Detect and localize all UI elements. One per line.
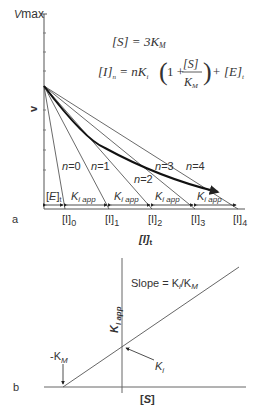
svg-text:KM: KM (183, 75, 199, 90)
svg-text:1 +: 1 + (167, 64, 184, 79)
b-x-axis-label: [S] (140, 393, 155, 405)
tick-i4: [I]4 (233, 213, 247, 228)
svg-text:[S]: [S] (183, 57, 199, 71)
figure: Vmax v nn=0=0 n=1 n=2 n=3 n=4 [S] = 3KM … (0, 0, 260, 414)
interval-kiapp-1: Ki app (71, 190, 96, 204)
label-n0: nn=0=0 (62, 160, 81, 172)
neg-km-label: -KM (50, 350, 68, 365)
tick-i1: [I]1 (105, 213, 119, 228)
svg-text:): ) (203, 57, 212, 86)
y-axis-label: v (27, 105, 39, 112)
interval-kiapp-3: Ki app (155, 190, 180, 204)
svg-text:[I]n = nKi: [I]n = nKi (98, 64, 148, 81)
panel-b-label: b (13, 381, 19, 393)
x-axis-label: [I]t (138, 233, 152, 247)
tick-i0: [I]0 (62, 213, 76, 228)
tick-i3: [I]3 (191, 213, 205, 228)
titration-curve (44, 86, 218, 192)
interval-kiapp-4: Ki app (197, 190, 222, 204)
ki-label: Ki (155, 360, 164, 375)
slope-label: Slope = Ki/KM (131, 277, 198, 291)
interval-kiapp-2: Ki app (114, 190, 139, 204)
svg-text:+ [E]t: + [E]t (212, 64, 245, 81)
label-n4: n=4 (186, 160, 205, 172)
panel-a: Vmax v nn=0=0 n=1 n=2 n=3 n=4 [S] = 3KM … (12, 7, 247, 247)
label-n2: n=2 (134, 173, 153, 185)
equation-s: [S] = 3KM (112, 34, 167, 50)
panel-b: Slope = Ki/KM Ki app -KM Ki b [S] (13, 258, 246, 405)
interval-et: [E]t (46, 190, 61, 203)
equation-i: [I]n = nKi ( 1 + [S] KM ) + [E]t (98, 57, 245, 90)
label-n3: n=3 (155, 160, 174, 172)
line-n2 (44, 86, 152, 209)
vmax-label: Vmax (14, 7, 44, 21)
ki-arrow (126, 348, 154, 360)
tick-i2: [I]2 (148, 213, 162, 228)
panel-a-label: a (12, 213, 19, 225)
label-n1: n=1 (91, 160, 110, 172)
b-y-axis-label: Ki app (108, 306, 123, 333)
